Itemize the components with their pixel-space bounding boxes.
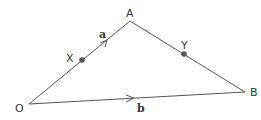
label-B: B xyxy=(250,86,258,99)
label-vector-a: a xyxy=(99,28,106,41)
label-Y: Y xyxy=(180,39,188,52)
line-OA xyxy=(29,21,130,104)
point-Y-dot xyxy=(181,51,187,57)
line-AB xyxy=(130,21,245,92)
point-X-dot xyxy=(79,57,85,63)
label-O: O xyxy=(15,102,24,115)
label-A: A xyxy=(126,7,134,20)
label-vector-b: b xyxy=(137,102,145,115)
label-X: X xyxy=(66,52,74,65)
vector-diagram: O A B X Y a b xyxy=(0,0,261,120)
